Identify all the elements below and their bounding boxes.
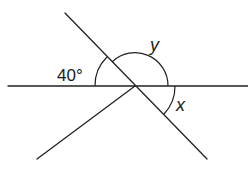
- angle-arc-40: [95, 57, 107, 86]
- angle-label-40: 40°: [57, 66, 83, 85]
- lower-left-ray: [37, 86, 135, 159]
- angle-arc-x: [164, 86, 175, 114]
- angle-label-y: y: [148, 35, 160, 55]
- angle-diagram: 40° y x: [0, 0, 248, 170]
- angle-label-x: x: [175, 95, 186, 115]
